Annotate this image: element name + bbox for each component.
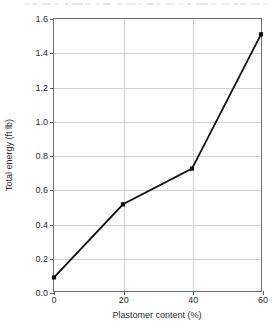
x-tick-label: 0	[51, 296, 56, 305]
y-tick-label: 0.8	[35, 152, 48, 161]
y-tick-label: 1.0	[35, 117, 48, 126]
chart-figure: 0.00.20.40.60.81.01.21.41.6 0204060 Tota…	[0, 0, 274, 336]
y-tick-label: 1.6	[35, 15, 48, 24]
x-tick-label: 40	[188, 296, 198, 305]
y-tick-label: 1.2	[35, 83, 48, 92]
y-tick-label: 0.0	[35, 289, 48, 298]
data-point-marker	[190, 167, 194, 171]
data-point-marker	[121, 202, 125, 206]
data-series-line	[54, 19, 261, 291]
y-axis-title: Total energy (ft lb)	[5, 119, 14, 191]
x-axis-title: Plastomer content (%)	[112, 311, 201, 320]
data-point-marker	[52, 275, 56, 279]
x-tick-label: 60	[258, 296, 268, 305]
plot-area: 0.00.20.40.60.81.01.21.41.6 0204060	[53, 18, 262, 292]
y-tick-label: 0.2	[35, 254, 48, 263]
x-tick-label: 20	[119, 296, 129, 305]
y-tick-label: 1.4	[35, 49, 48, 58]
y-tick-label: 0.4	[35, 220, 48, 229]
data-point-marker	[259, 32, 263, 36]
y-tick-label: 0.6	[35, 186, 48, 195]
